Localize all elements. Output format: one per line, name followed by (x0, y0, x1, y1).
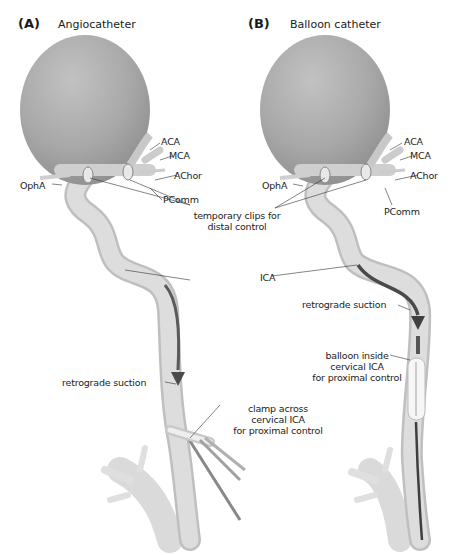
panel-b-label-balloon: balloon inside cervical ICA for proximal… (305, 350, 409, 383)
panel-a-title: Angiocatheter (58, 18, 136, 31)
panel-a-external-carotid (105, 448, 170, 540)
panel-b-balloon-line-1: balloon inside (305, 350, 409, 361)
panel-a-label-mca: MCA (169, 150, 190, 161)
panel-b-clip-1 (320, 167, 330, 183)
panel-b-label-pcomm: PComm (384, 206, 420, 217)
label-ica: ICA (260, 272, 275, 283)
panel-a-clamp-line-3: for proximal control (218, 425, 338, 436)
panel-a-label-opha: OphA (20, 180, 45, 191)
panel-a-label-aca: ACA (161, 136, 180, 147)
panel-b-letter: (B) (248, 16, 270, 31)
panel-a-label-achor: AChor (174, 170, 202, 181)
panel-b-balloon-line-2: cervical ICA (305, 361, 409, 372)
panel-b-label-retrograde-suction: retrograde suction (302, 299, 386, 310)
panel-a-label-retrograde-suction: retrograde suction (62, 377, 146, 388)
panel-b-clip-2 (361, 164, 371, 180)
panel-b-balloon-line-3: for proximal control (305, 372, 409, 383)
panel-b-label-aca: ACA (404, 136, 423, 147)
panel-a-clip-2 (123, 164, 133, 180)
panel-a-label-pcomm: PComm (163, 194, 199, 205)
panel-a-clip-1 (83, 167, 93, 183)
panel-b-label-opha: OphA (262, 180, 287, 191)
figure-illustration (0, 0, 452, 555)
panel-b-title: Balloon catheter (290, 18, 381, 31)
label-temporary-clips: temporary clips for distal control (188, 210, 286, 232)
panel-b-external-carotid (352, 450, 400, 540)
panel-a-clamp-line-2: cervical ICA (218, 414, 338, 425)
panel-b-illustration (260, 35, 425, 540)
panel-a-illustration (20, 35, 245, 540)
temporary-clips-line-2: distal control (188, 221, 286, 232)
panel-a-clamp-line-1: clamp across (218, 403, 338, 414)
panel-b-label-mca: MCA (410, 150, 431, 161)
temporary-clips-line-1: temporary clips for (188, 210, 286, 221)
panel-a-label-clamp: clamp across cervical ICA for proximal c… (218, 403, 338, 436)
panel-a-letter: (A) (18, 16, 40, 31)
panel-b-label-achor: AChor (410, 170, 438, 181)
